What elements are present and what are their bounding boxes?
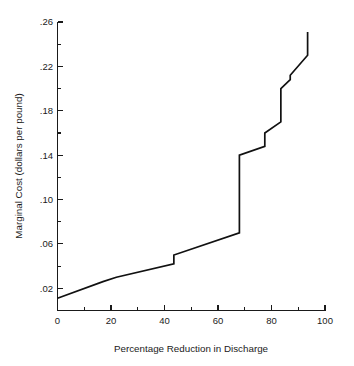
y-tick-label: .10 [40, 194, 53, 205]
x-tick-label: 60 [213, 315, 224, 326]
y-tick-label: .22 [40, 61, 53, 72]
x-tick-label: 100 [317, 315, 333, 326]
y-axis-title: Marginal Cost (dollars per pound) [13, 93, 24, 238]
x-axis-title: Percentage Reduction in Discharge [114, 343, 269, 354]
x-tick-label: 80 [266, 315, 277, 326]
y-axis-ticks [58, 22, 64, 288]
chart-figure: .02.06.10.14.18.22.26 020406080100 Perce… [0, 0, 354, 366]
x-axis-tick-labels: 020406080100 [55, 315, 333, 326]
marginal-cost-chart: .02.06.10.14.18.22.26 020406080100 Perce… [0, 0, 354, 366]
y-tick-label: .02 [40, 283, 53, 294]
x-tick-label: 40 [159, 315, 170, 326]
y-tick-label: .14 [40, 150, 53, 161]
y-tick-label: .26 [40, 16, 53, 27]
x-tick-label: 20 [106, 315, 117, 326]
y-tick-label: .18 [40, 105, 53, 116]
x-tick-label: 0 [55, 315, 60, 326]
marginal-cost-curve [58, 32, 308, 298]
y-tick-label: .06 [40, 238, 53, 249]
y-axis-tick-labels: .02.06.10.14.18.22.26 [40, 16, 53, 293]
x-axis-ticks [58, 305, 326, 311]
